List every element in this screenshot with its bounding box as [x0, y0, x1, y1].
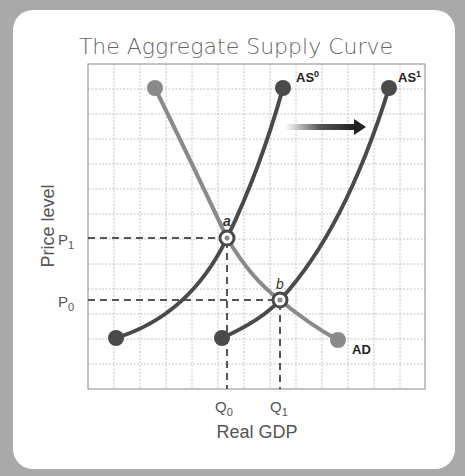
plot-frame: [88, 64, 425, 389]
point-b-marker: [273, 293, 287, 307]
q0-tick-label: Q0: [215, 398, 233, 418]
ad-label: AD: [352, 342, 371, 357]
as0-start-dot: [108, 330, 124, 346]
p1-tick-label: P1: [58, 231, 74, 251]
point-a-label: a: [223, 213, 231, 229]
reference-lines: [88, 238, 280, 389]
p0-tick-label: P0: [58, 293, 74, 313]
point-a-marker: [220, 231, 234, 245]
as1-start-dot: [214, 330, 230, 346]
ad-start-dot: [147, 80, 163, 96]
point-b-label: b: [276, 276, 284, 292]
as1-label: AS1: [398, 69, 421, 85]
x-axis-title: Real GDP: [216, 422, 297, 442]
shift-arrow-icon: [285, 119, 366, 135]
q1-tick-label: Q1: [270, 398, 288, 418]
ad-end-dot: [330, 332, 346, 348]
chart-title: The Aggregate Supply Curve: [79, 34, 393, 59]
as0-end-dot: [275, 80, 291, 96]
y-axis-title: Price level: [38, 184, 58, 267]
aggregate-supply-chart: The Aggregate Supply Curve: [0, 0, 465, 476]
as0-label: AS0: [296, 69, 319, 85]
as1-end-dot: [381, 80, 397, 96]
grid: [88, 64, 425, 389]
